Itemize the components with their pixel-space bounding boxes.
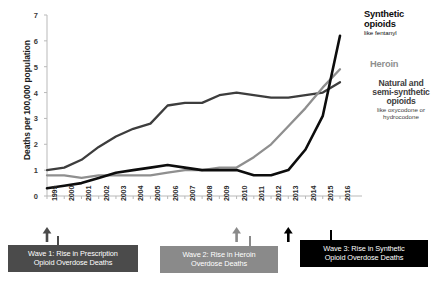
wave-1-annotation: Wave 1: Rise in Prescription Opioid Over… xyxy=(8,245,138,272)
y-tick-6: 6 xyxy=(24,37,38,46)
x-tick-2012: 2012 xyxy=(274,186,283,201)
x-tick-2009: 2009 xyxy=(222,186,231,201)
wave-3-arrow xyxy=(284,227,293,242)
wave-3-line-2: Opioid Overdose Deaths xyxy=(303,253,425,262)
series-label-natural-sub: like oxycodone or hydrocodone xyxy=(368,106,434,120)
y-tick-0: 0 xyxy=(24,192,38,201)
y-tick-4: 4 xyxy=(24,89,38,98)
x-tick-2000: 2000 xyxy=(67,186,76,201)
series-label-synthetic-sub: like fentanyl xyxy=(364,29,437,36)
y-tick-5: 5 xyxy=(24,63,38,72)
y-tick-1: 1 xyxy=(24,166,38,175)
wave-1-arrow xyxy=(43,227,52,242)
wave-1-line-2: Opioid Overdose Deaths xyxy=(11,258,135,267)
series-label-synthetic-opioids: Synthetic opioids like fentanyl xyxy=(364,10,437,36)
series-label-synthetic-name: Synthetic opioids xyxy=(364,9,404,29)
wave-2-arrow xyxy=(232,227,241,242)
wave-2-line-2: Overdose Deaths xyxy=(163,259,275,268)
wave-2-line-1: Wave 2: Rise in Heroin xyxy=(163,250,275,259)
wave-2-annotation: Wave 2: Rise in Heroin Overdose Deaths xyxy=(160,246,278,273)
series-label-natural-opioids: Natural and semi-synthetic opioids like … xyxy=(368,79,434,120)
x-tick-2007: 2007 xyxy=(188,186,197,201)
series-line-natural-semisynthetic-opioids xyxy=(47,82,340,170)
wave-1-line-1: Wave 1: Rise in Prescription xyxy=(11,249,135,258)
x-tick-2002: 2002 xyxy=(102,186,111,201)
y-tick-7: 7 xyxy=(24,11,38,20)
x-tick-1999: 1999 xyxy=(50,186,59,201)
x-tick-2006: 2006 xyxy=(171,186,180,201)
opioid-overdose-chart: Deaths per 100,000 population 7 6 5 4 3 … xyxy=(0,0,437,285)
x-tick-2001: 2001 xyxy=(84,186,93,201)
series-label-heroin: Heroin xyxy=(370,60,398,70)
series-label-heroin-name: Heroin xyxy=(370,59,398,69)
x-tick-2004: 2004 xyxy=(136,186,145,201)
x-tick-2014: 2014 xyxy=(309,186,318,201)
x-tick-2016: 2016 xyxy=(343,186,352,201)
wave-3-line-1: Wave 3: Rise in Synthetic xyxy=(303,244,425,253)
y-tick-2: 2 xyxy=(24,140,38,149)
x-tick-2015: 2015 xyxy=(326,186,335,201)
y-tick-3: 3 xyxy=(24,114,38,123)
wave-3-annotation: Wave 3: Rise in Synthetic Opioid Overdos… xyxy=(300,240,428,267)
x-tick-2010: 2010 xyxy=(240,186,249,201)
x-tick-2013: 2013 xyxy=(291,186,300,201)
x-tick-2003: 2003 xyxy=(119,186,128,201)
x-tick-2005: 2005 xyxy=(153,186,162,201)
x-tick-2011: 2011 xyxy=(257,186,266,201)
series-line-synthetic-opioids xyxy=(47,36,340,189)
x-tick-2008: 2008 xyxy=(205,186,214,201)
series-label-natural-name: Natural and semi-synthetic opioids xyxy=(372,78,429,106)
